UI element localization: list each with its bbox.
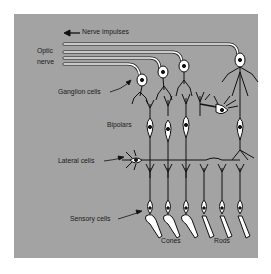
receptor-synapses [146,164,244,200]
cones-label: Cones [161,237,181,245]
rods-label: Rods [214,237,230,245]
rod-cells [202,200,251,238]
retina-diagram [0,0,271,274]
ganglion-cells-label: Ganglion cells [58,88,101,96]
cone-cells [146,200,199,238]
lateral-cells-label: Lateral cells [58,157,94,165]
sensory-cells-label: Sensory cells [70,215,110,223]
left-arrow-icon [64,30,80,36]
bipolar-cells [147,116,243,200]
bipolars-label: Bipolars [107,121,132,129]
optic-nerve-label-line2: nerve [37,58,54,66]
optic-nerve-label-line1: Optic [37,47,53,55]
label-leaders [104,80,142,219]
nerve-impulses-label: Nerve impulses [82,28,129,36]
optic-nerve-fibers [64,44,238,76]
bipolar-dendrites [146,92,210,118]
